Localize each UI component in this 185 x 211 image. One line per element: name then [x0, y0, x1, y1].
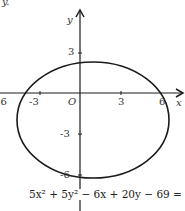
x-tick-neg6: -6: [0, 97, 7, 107]
x-tick-neg3: -3: [29, 97, 39, 107]
y-tick-neg3: -3: [60, 129, 70, 139]
x-axis-label: x: [176, 98, 182, 108]
origin-label: O: [68, 97, 76, 107]
ellipse-diagram: y. y x O -6 -3 3 6 3 -3 -6 5x² + 5y² − 6…: [0, 0, 185, 211]
y-tick-3: 3: [68, 47, 74, 57]
y-axis-label: y: [67, 15, 73, 25]
ellipse-curve: [17, 62, 169, 178]
x-tick-6: 6: [159, 97, 165, 107]
plot-canvas: [0, 0, 185, 211]
ellipse-equation: 5x² + 5y² − 6x + 20y − 69 = 0: [29, 189, 185, 200]
y-tick-neg6: -6: [60, 170, 70, 180]
x-tick-3: 3: [118, 97, 124, 107]
